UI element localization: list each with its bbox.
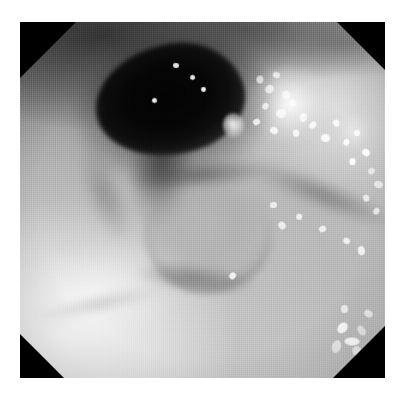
endoscopic-photo: [20, 22, 385, 378]
specular-highlight: [256, 76, 263, 84]
specular-highlight: [367, 166, 377, 175]
page-root: [0, 0, 405, 393]
specular-highlight: [342, 237, 351, 246]
specular-highlight: [341, 304, 348, 312]
mask-chamfer-top-right: [337, 22, 385, 70]
specular-highlight: [373, 180, 383, 189]
specular-highlight: [275, 108, 286, 117]
specular-highlight: [318, 225, 326, 233]
specular-highlight: [362, 308, 374, 319]
specular-highlight: [269, 202, 276, 208]
specular-highlight: [277, 220, 288, 231]
specular-highlight: [357, 246, 365, 256]
specular-highlight: [173, 62, 179, 68]
lumen-edge-highlight: [223, 113, 245, 138]
mask-chamfer-bottom-right: [333, 326, 385, 378]
mask-chamfer-top-left: [20, 22, 76, 78]
mask-chamfer-bottom-left: [20, 334, 64, 378]
specular-highlight: [350, 158, 356, 165]
specular-highlight: [295, 213, 302, 220]
